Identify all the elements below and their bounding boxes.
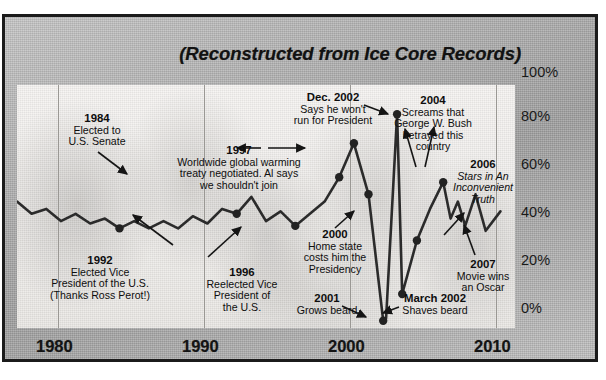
data-point-marker — [335, 173, 343, 181]
annotation-2001-line1: Grows beard — [285, 305, 369, 317]
annotation-dec-2002-line2: run for President — [277, 115, 389, 127]
y-tick-0: 0% — [521, 300, 542, 316]
annotation-march-2002: March 2002 Shaves beard — [388, 293, 482, 316]
annotation-dec-2002-year: Dec. 2002 — [277, 92, 389, 104]
data-point-marker — [115, 224, 123, 232]
data-point-marker — [413, 236, 421, 244]
annotation-1996-year: 1996 — [187, 267, 297, 279]
x-tick-1980: 1980 — [36, 337, 73, 356]
annotation-1997: 1997 Worldwide global warming treaty neg… — [155, 145, 323, 191]
annotation-1997-year: 1997 — [155, 145, 323, 157]
chart-title: (Reconstructed from Ice Core Records) — [5, 43, 521, 65]
x-tick-2000: 2000 — [328, 337, 365, 356]
y-tick-100: 100% — [521, 64, 558, 80]
annotation-2004-year: 2004 — [383, 95, 483, 107]
annotation-2001: 2001 Grows beard — [285, 293, 369, 316]
data-point-marker — [379, 317, 387, 325]
data-point-marker — [350, 139, 358, 147]
annotation-2006-year: 2006 — [437, 159, 529, 171]
annotation-2000: 2000 Home state costs him the Presidency — [287, 229, 383, 275]
annotation-2001-year: 2001 — [285, 293, 369, 305]
x-tick-1990: 1990 — [182, 337, 219, 356]
annotation-2000-year: 2000 — [287, 229, 383, 241]
annotation-2004-line4: country — [383, 141, 483, 153]
data-point-marker — [364, 190, 372, 198]
annotation-march-2002-line1: Shaves beard — [388, 305, 482, 317]
annotation-dec-2002: Dec. 2002 Says he won't run for Presiden… — [277, 92, 389, 127]
annotation-2007-year: 2007 — [439, 259, 527, 271]
x-tick-2010: 2010 — [474, 337, 511, 356]
y-tick-80: 80% — [521, 108, 550, 124]
chart-screenshot: (Reconstructed from Ice Core Records) 19… — [0, 0, 606, 380]
annotation-2006-line3: Truth — [437, 194, 529, 206]
annotation-1992-line3: (Thanks Ross Perot!) — [27, 290, 173, 302]
annotation-2004: 2004 Screams that George W. Bush betraye… — [383, 95, 483, 153]
annotation-1996: 1996 Reelected Vice President of the U.S… — [187, 267, 297, 313]
annotation-1997-line3: we shouldn't join — [155, 180, 323, 192]
annotation-2007: 2007 Movie wins an Oscar — [439, 259, 527, 294]
annotation-2000-line3: Presidency — [287, 264, 383, 276]
annotation-2007-line2: an Oscar — [439, 282, 527, 294]
annotation-1996-line3: the U.S. — [187, 302, 297, 314]
annotation-1984-year: 1984 — [45, 113, 149, 125]
annotation-march-2002-year: March 2002 — [388, 293, 482, 305]
annotation-1984: 1984 Elected to U.S. Senate — [45, 113, 149, 148]
annotation-1984-line2: U.S. Senate — [45, 136, 149, 148]
data-point-marker — [233, 210, 241, 218]
chart-frame: (Reconstructed from Ice Core Records) 19… — [2, 14, 598, 362]
annotation-1992: 1992 Elected Vice President of the U.S. … — [27, 255, 173, 301]
y-tick-40: 40% — [521, 204, 550, 220]
annotation-2006: 2006 Stars in An Inconvenient Truth — [437, 159, 529, 205]
annotation-1992-year: 1992 — [27, 255, 173, 267]
